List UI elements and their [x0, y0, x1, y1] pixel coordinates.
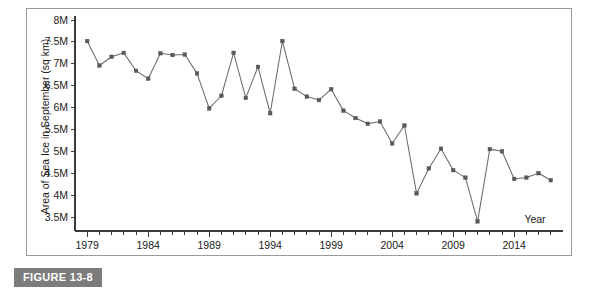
data-point-marker — [500, 150, 504, 154]
y-tick-label: 6M — [53, 101, 68, 113]
data-point-marker — [281, 39, 285, 43]
sea-ice-line-chart: 8M7.5M7M6.5M6M5.5M5M4.5M4M3.5M 197919841… — [27, 9, 571, 255]
figure-container: 8M7.5M7M6.5M6M5.5M5M4.5M4M3.5M 197919841… — [0, 0, 599, 298]
figure-caption: FIGURE 13-8 — [14, 268, 102, 287]
x-tick-label: 2004 — [381, 239, 405, 251]
data-point-marker — [378, 120, 382, 124]
data-point-marker — [305, 95, 309, 99]
y-tick-label: 4M — [53, 189, 68, 201]
x-tick-label: 1999 — [320, 239, 344, 251]
data-point-marker — [403, 124, 407, 128]
data-point-marker — [183, 53, 187, 57]
x-axis-title: Year — [524, 213, 546, 225]
x-tick-label: 1979 — [76, 239, 100, 251]
data-point-marker — [98, 64, 102, 68]
y-tick-label: 5M — [53, 145, 68, 157]
data-point-marker — [207, 107, 211, 111]
data-point-marker — [537, 171, 541, 175]
data-point-marker — [134, 69, 138, 73]
data-point-marker — [268, 111, 272, 115]
data-point-marker — [525, 176, 529, 180]
data-point-marker — [317, 98, 321, 102]
data-point-marker — [366, 122, 370, 126]
data-series — [85, 39, 552, 223]
data-point-marker — [110, 55, 114, 59]
data-point-marker — [415, 192, 419, 196]
data-point-marker — [427, 167, 431, 171]
x-axis: 19791984198919941999200420092014 — [75, 231, 563, 251]
y-axis-title: Area of Sea Ice in September (sq km) — [39, 39, 51, 215]
data-point-marker — [488, 147, 492, 151]
data-point-marker — [293, 87, 297, 91]
data-point-marker — [354, 116, 358, 120]
data-point-marker — [122, 51, 126, 55]
data-point-marker — [146, 77, 150, 81]
data-point-marker — [390, 142, 394, 146]
data-point-marker — [85, 39, 89, 43]
data-point-marker — [476, 220, 480, 224]
chart-frame: 8M7.5M7M6.5M6M5.5M5M4.5M4M3.5M 197919841… — [26, 8, 572, 256]
data-point-marker — [220, 94, 224, 98]
data-point-marker — [195, 72, 199, 76]
x-tick-label: 2014 — [503, 239, 527, 251]
data-point-marker — [232, 51, 236, 55]
y-tick-label: 8M — [53, 14, 68, 26]
data-point-marker — [512, 177, 516, 181]
data-point-marker — [329, 87, 333, 91]
y-tick-label: 7M — [53, 57, 68, 69]
data-point-marker — [159, 51, 163, 55]
x-tick-label: 1984 — [137, 239, 161, 251]
data-point-marker — [171, 53, 175, 57]
data-point-marker — [256, 65, 260, 69]
data-point-marker — [464, 176, 468, 180]
data-point-marker — [439, 147, 443, 151]
x-tick-label: 1989 — [198, 239, 222, 251]
data-point-marker — [244, 96, 248, 100]
series-line — [87, 41, 551, 221]
data-point-marker — [451, 168, 455, 172]
data-point-marker — [342, 109, 346, 113]
data-point-marker — [549, 178, 553, 182]
x-tick-label: 2009 — [442, 239, 466, 251]
x-tick-label: 1994 — [259, 239, 283, 251]
